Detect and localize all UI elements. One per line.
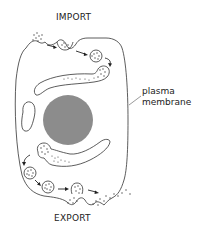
lower-compartment-cargo (40, 145, 69, 162)
plasma-membrane-label-line2: membrane (142, 97, 191, 108)
arrow-export-1 (22, 155, 30, 166)
arrow-import-2 (76, 51, 88, 56)
arrow-export-4 (88, 190, 99, 194)
export-vesicle-fusing (67, 183, 82, 204)
upper-curved-compartment (34, 66, 109, 95)
left-small-compartment (22, 102, 35, 131)
export-vesicle-1 (24, 167, 36, 179)
arrow-export-2 (35, 180, 41, 186)
export-label: EXPORT (54, 213, 91, 223)
nucleus (43, 95, 93, 145)
plasma-membrane-pointer (129, 96, 141, 105)
arrow-export-3 (58, 187, 69, 191)
plasma-membrane-label: plasma membrane (142, 86, 191, 108)
cell-diagram (0, 0, 198, 234)
import-vesicle-free (90, 50, 102, 62)
export-cargo-outside (92, 189, 130, 205)
arrow-import-1 (47, 45, 57, 49)
arrow-import-3 (105, 58, 112, 67)
plasma-membrane-label-line1: plasma (142, 86, 191, 97)
export-vesicle-2 (42, 181, 54, 193)
import-cargo-outside (32, 32, 42, 41)
